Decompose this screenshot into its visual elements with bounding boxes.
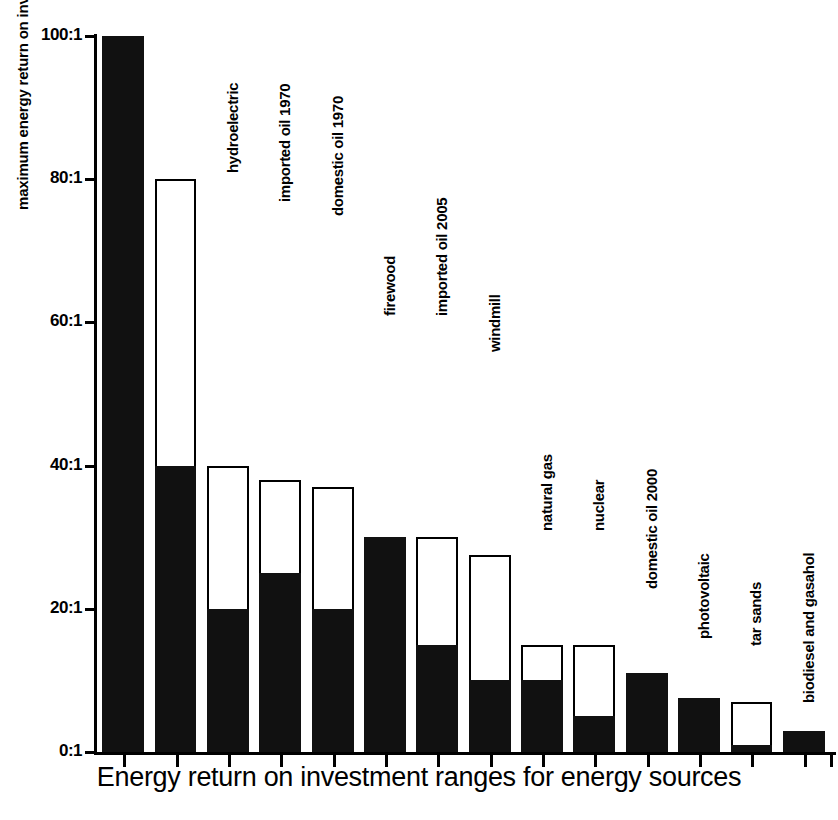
chart-page: maximum energy return on investment 0:12… <box>0 0 838 820</box>
bar[interactable]: imported oil 2005 <box>416 537 458 752</box>
y-axis-tick-label: 100:1 <box>41 25 82 45</box>
bar-low-segment <box>521 680 563 752</box>
bar-low-segment <box>469 680 511 752</box>
y-axis-tick-label: 20:1 <box>50 598 82 618</box>
bar[interactable]: windmill <box>469 555 511 752</box>
y-axis-title-text: maximum energy return on investment <box>14 0 31 210</box>
bar-low-segment <box>259 573 301 752</box>
bar-label: windmill <box>486 295 503 353</box>
bar-label: imported oil 1970 <box>276 84 293 202</box>
y-axis-tick-mark <box>85 608 96 611</box>
bar[interactable] <box>102 36 144 752</box>
bar[interactable]: biodiesel and gasahol <box>783 731 825 752</box>
bar[interactable]: natural gas <box>521 645 563 752</box>
y-axis-tick-mark <box>85 465 96 468</box>
bar[interactable]: firewood <box>364 537 406 752</box>
bar[interactable]: nuclear <box>573 645 615 752</box>
y-axis-tick-label: 60:1 <box>50 311 82 331</box>
bar-label: tar sands <box>747 582 764 646</box>
bar-label: domestic oil 1970 <box>329 96 346 216</box>
bar-low-segment <box>364 537 406 752</box>
x-axis-line <box>94 752 836 755</box>
bar-low-segment <box>102 36 144 752</box>
bar[interactable]: domestic oil 1970 <box>312 487 354 752</box>
bar[interactable]: coal 2005 <box>155 179 197 752</box>
bar-low-segment <box>626 673 668 752</box>
bar-low-segment <box>155 466 197 752</box>
bar-label: imported oil 2005 <box>433 198 450 316</box>
bar-label: hydroelectric <box>224 83 241 173</box>
y-axis-tick-mark <box>85 751 96 754</box>
y-axis-tick-label: 80:1 <box>50 168 82 188</box>
y-axis-tick-mark <box>85 178 96 181</box>
chart-title: Energy return on investment ranges for e… <box>0 762 838 793</box>
bar-label: natural gas <box>538 454 555 531</box>
bar-label: biodiesel and gasahol <box>800 553 817 703</box>
bar-low-segment <box>731 745 773 752</box>
bar-low-segment <box>416 645 458 752</box>
bar[interactable]: imported oil 1970 <box>259 480 301 752</box>
y-axis-tick-label: 40:1 <box>50 455 82 475</box>
plot-area: coal 2005hydroelectricimported oil 1970d… <box>97 36 830 752</box>
bar-low-segment <box>207 609 249 752</box>
bar-low-segment <box>312 609 354 752</box>
bar-label: firewood <box>381 256 398 316</box>
y-axis-title: maximum energy return on investment <box>14 0 31 210</box>
bar-label: photovoltaic <box>695 553 712 639</box>
bar[interactable]: hydroelectric <box>207 466 249 752</box>
bar[interactable]: domestic oil 2000 <box>626 673 668 752</box>
bar-label: nuclear <box>590 480 607 531</box>
bar[interactable]: tar sands <box>731 702 773 752</box>
bar-low-segment <box>573 716 615 752</box>
y-axis-tick-label: 0:1 <box>59 741 82 761</box>
y-axis-tick-mark <box>85 321 96 324</box>
bar-low-segment <box>678 698 720 752</box>
bar-low-segment <box>783 731 825 752</box>
y-axis-tick-mark <box>85 35 96 38</box>
bar-label: domestic oil 2000 <box>643 469 660 589</box>
bar[interactable]: photovoltaic <box>678 698 720 752</box>
